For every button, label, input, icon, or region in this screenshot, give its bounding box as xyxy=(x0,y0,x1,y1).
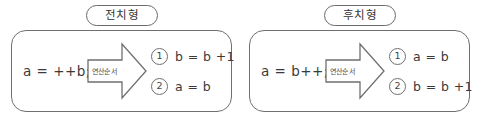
result-order-badge: 2 xyxy=(389,78,406,95)
result-order-badge: 2 xyxy=(151,78,168,95)
increment-order-diagram: 전치형 a = ++b; 연산순서 1 b = b +1 2 a = b xyxy=(0,0,478,122)
panel-frame-post-increment: a = b++; 연산순서 1 a = b 2 b = b +1 xyxy=(249,30,470,112)
result-order-badge: 1 xyxy=(389,48,406,65)
result-row: 2 a = b xyxy=(151,78,235,95)
arrow-label-left: 연산순서 xyxy=(92,66,117,76)
arrow-label-right: 연산순서 xyxy=(330,66,355,76)
result-expression: a = b xyxy=(413,49,449,64)
result-row: 2 b = b +1 xyxy=(389,78,473,95)
operation-order-arrow-right: 연산순서 xyxy=(324,42,386,100)
operation-order-arrow-left: 연산순서 xyxy=(86,42,148,100)
result-order-badge: 1 xyxy=(151,48,168,65)
result-row: 1 a = b xyxy=(389,48,473,65)
results-list-right: 1 a = b 2 b = b +1 xyxy=(389,31,473,111)
result-expression: b = b +1 xyxy=(175,49,235,64)
result-expression: a = b xyxy=(175,79,211,94)
statement-post-increment: a = b++; xyxy=(261,63,329,79)
panel-caption-pre-increment: 전치형 xyxy=(86,5,158,26)
result-expression: b = b +1 xyxy=(413,79,473,94)
statement-pre-increment: a = ++b; xyxy=(23,63,91,79)
panel-pre-increment: 전치형 a = ++b; 연산순서 1 b = b +1 2 a = b xyxy=(6,0,238,122)
panel-caption-post-increment: 후치형 xyxy=(324,5,396,26)
panel-post-increment: 후치형 a = b++; 연산순서 1 a = b 2 b = b +1 xyxy=(244,0,476,122)
result-row: 1 b = b +1 xyxy=(151,48,235,65)
results-list-left: 1 b = b +1 2 a = b xyxy=(151,31,235,111)
panel-frame-pre-increment: a = ++b; 연산순서 1 b = b +1 2 a = b xyxy=(11,30,232,112)
